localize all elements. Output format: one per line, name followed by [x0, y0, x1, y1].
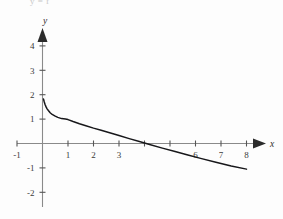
x-tick-label: 8: [244, 150, 249, 160]
x-tick-label: 2: [91, 150, 96, 160]
y-axis-arrow-icon: [38, 28, 48, 42]
y-tick-label: 1: [30, 114, 35, 124]
y-tick-label: 2: [30, 90, 35, 100]
x-tick-label: 7: [219, 150, 224, 160]
graph-plot: x y -1123678 4321-1-2: [0, 0, 283, 219]
y-axis-label: y: [42, 16, 48, 26]
x-axis-arrow-icon: [253, 139, 266, 149]
x-axis-label: x: [269, 139, 275, 149]
y-tick-label: 4: [30, 41, 35, 51]
clipped-caption: y = f: [30, 0, 50, 6]
x-tick-label: 1: [66, 150, 71, 160]
x-tick-label: 3: [117, 150, 122, 160]
figure-container: y = f x y -1123678 4321-1-2: [0, 0, 283, 219]
y-tick-label: 3: [30, 66, 35, 76]
y-tick-label: -1: [27, 163, 35, 173]
y-tick-label: -2: [27, 188, 35, 198]
data-curve: [44, 99, 247, 169]
x-tick-label: -1: [13, 150, 21, 160]
